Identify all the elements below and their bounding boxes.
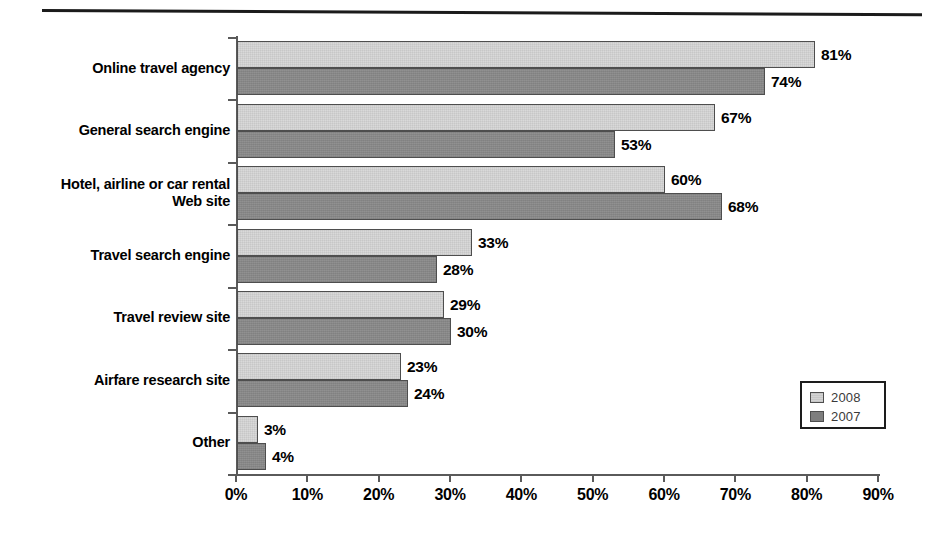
legend-swatch-2007-icon xyxy=(810,411,824,422)
x-axis-tick xyxy=(306,474,308,482)
bar-2008-3 xyxy=(237,166,665,193)
bar-value-label: 74% xyxy=(771,73,801,91)
bar-2007-5 xyxy=(237,318,451,345)
bar-value-label: 24% xyxy=(414,385,444,403)
chart-legend: 2008 2007 xyxy=(800,381,886,429)
x-axis-tick xyxy=(235,474,237,482)
y-axis-category-label: Airfare research site xyxy=(0,372,230,389)
bar-2007-2 xyxy=(237,131,615,158)
y-axis-tick xyxy=(228,162,237,164)
legend-swatch-2008-icon xyxy=(810,392,824,403)
y-axis-tick xyxy=(228,287,237,289)
bar-2008-6 xyxy=(237,353,401,380)
y-axis-tick xyxy=(228,412,237,414)
x-axis-tick xyxy=(378,474,380,482)
y-axis-category-label: Travel search engine xyxy=(0,247,230,264)
category-label-line: Travel search engine xyxy=(0,247,230,264)
bar-value-label: 53% xyxy=(621,136,651,154)
x-axis-tick-label: 70% xyxy=(700,486,770,504)
bar-value-label: 4% xyxy=(272,448,294,466)
category-label-line: Other xyxy=(0,434,230,451)
bar-chart: 0%10%20%30%40%50%60%70%80%90% Online tra… xyxy=(0,0,928,534)
category-label-line: Airfare research site xyxy=(0,372,230,389)
bar-value-label: 67% xyxy=(721,109,751,127)
x-axis-tick-label: 80% xyxy=(772,486,842,504)
bar-2007-1 xyxy=(237,68,765,95)
category-label-line: General search engine xyxy=(0,122,230,139)
bar-2008-2 xyxy=(237,104,715,131)
category-label-line: Travel review site xyxy=(0,309,230,326)
legend-item-2007: 2007 xyxy=(810,407,884,426)
x-axis-tick xyxy=(592,474,594,482)
x-axis-tick xyxy=(806,474,808,482)
legend-label-2007: 2007 xyxy=(831,409,861,424)
bar-value-label: 30% xyxy=(457,323,487,341)
y-axis-tick xyxy=(228,37,237,39)
x-axis-tick-label: 0% xyxy=(201,486,271,504)
bar-2008-1 xyxy=(237,41,815,68)
bar-value-label: 60% xyxy=(671,171,701,189)
y-axis-category-label: Online travel agency xyxy=(0,60,230,77)
bar-2008-4 xyxy=(237,229,472,256)
bar-2008-7 xyxy=(237,416,258,443)
y-axis-category-label: General search engine xyxy=(0,122,230,139)
x-axis-line xyxy=(236,474,880,476)
bar-value-label: 68% xyxy=(728,198,758,216)
category-label-line: Hotel, airline or car rental xyxy=(0,176,230,193)
x-axis-tick-label: 50% xyxy=(558,486,628,504)
category-label-line: Online travel agency xyxy=(0,60,230,77)
x-axis-tick xyxy=(877,474,879,482)
x-axis-tick-label: 20% xyxy=(344,486,414,504)
bar-value-label: 23% xyxy=(407,358,437,376)
bar-value-label: 28% xyxy=(443,261,473,279)
bar-2007-7 xyxy=(237,443,266,470)
x-axis-tick-label: 40% xyxy=(486,486,556,504)
x-axis-tick-label: 90% xyxy=(843,486,913,504)
x-axis-tick-label: 60% xyxy=(629,486,699,504)
x-axis-tick xyxy=(734,474,736,482)
x-axis-tick-label: 30% xyxy=(415,486,485,504)
y-axis-tick xyxy=(228,224,237,226)
x-axis-tick xyxy=(520,474,522,482)
bar-value-label: 33% xyxy=(478,234,508,252)
bar-2007-6 xyxy=(237,380,408,407)
legend-item-2008: 2008 xyxy=(810,388,884,407)
y-axis-tick xyxy=(228,349,237,351)
bar-value-label: 81% xyxy=(821,46,851,64)
y-axis-category-label: Other xyxy=(0,434,230,451)
x-axis-tick-label: 10% xyxy=(272,486,342,504)
bar-2008-5 xyxy=(237,291,444,318)
y-axis-category-label: Travel review site xyxy=(0,309,230,326)
x-axis-tick xyxy=(663,474,665,482)
y-axis-tick xyxy=(228,99,237,101)
bar-value-label: 29% xyxy=(450,296,480,314)
legend-label-2008: 2008 xyxy=(831,390,861,405)
bar-value-label: 3% xyxy=(264,421,286,439)
category-label-line: Web site xyxy=(0,193,230,210)
x-axis-tick xyxy=(449,474,451,482)
y-axis-category-label: Hotel, airline or car rentalWeb site xyxy=(0,176,230,210)
bar-2007-4 xyxy=(237,256,437,283)
bar-2007-3 xyxy=(237,193,722,220)
